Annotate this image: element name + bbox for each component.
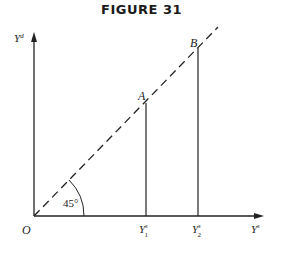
tick-label-y2: Ys2	[192, 223, 201, 239]
x-axis-label: Ys	[251, 223, 260, 235]
point-a-label: A	[137, 89, 146, 103]
point-b-label: B	[190, 36, 198, 50]
forty-five-degree-line	[34, 27, 218, 216]
tick-label-y1: Ys1	[139, 223, 148, 239]
origin-label: O	[22, 223, 31, 237]
angle-label: 45°	[63, 197, 78, 209]
diagram: Yd A B 45° O Ys1 Ys2 Ys	[0, 0, 283, 254]
y-axis-label: Yd	[14, 32, 24, 44]
y-axis-arrow	[31, 32, 37, 42]
x-axis-arrow	[254, 213, 264, 219]
